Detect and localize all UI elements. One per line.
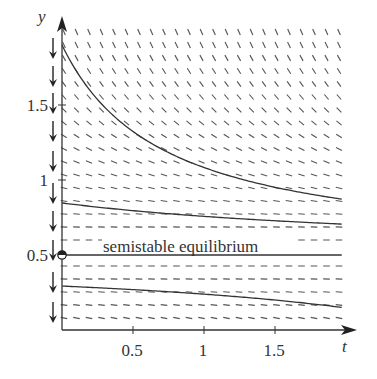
- slope-mark: [336, 121, 341, 125]
- slope-mark: [111, 187, 117, 188]
- slope-mark: [298, 201, 305, 202]
- slope-mark: [174, 94, 178, 99]
- slope-mark: [224, 147, 230, 150]
- slope-mark: [238, 29, 241, 35]
- slope-mark: [163, 42, 166, 48]
- slope-mark: [199, 94, 203, 99]
- slope-mark: [324, 147, 330, 150]
- slope-mark: [275, 42, 278, 48]
- slope-mark: [73, 214, 80, 215]
- slope-mark: [287, 108, 292, 113]
- slope-mark: [299, 94, 303, 99]
- slope-mark: [238, 42, 241, 48]
- slope-mark: [175, 81, 179, 86]
- slope-mark: [136, 317, 142, 318]
- slope-mark: [223, 214, 230, 215]
- slope-mark: [211, 161, 217, 163]
- slope-mark: [123, 174, 129, 176]
- slope-mark: [175, 55, 178, 61]
- slope-mark: [137, 55, 140, 61]
- slope-mark: [299, 121, 304, 125]
- slope-mark: [148, 174, 154, 176]
- slope-mark: [323, 161, 329, 163]
- slope-mark: [111, 317, 117, 318]
- slope-mark: [148, 161, 154, 163]
- slope-mark: [248, 187, 254, 188]
- slope-mark: [274, 94, 278, 99]
- slope-mark: [86, 161, 92, 163]
- x-tick-label-1: 1: [199, 341, 208, 360]
- slope-mark: [148, 305, 155, 306]
- slope-mark: [225, 29, 228, 35]
- slope-mark: [248, 174, 254, 176]
- slope-mark: [186, 134, 192, 138]
- slope-mark: [150, 29, 153, 35]
- slope-mark: [211, 174, 217, 176]
- slope-mark: [74, 94, 78, 99]
- slope-mark: [237, 68, 241, 74]
- slope-mark: [286, 201, 293, 202]
- slope-mark: [298, 174, 304, 176]
- slope-mark: [212, 55, 215, 61]
- semistable-point-icon: [58, 251, 66, 259]
- slope-mark: [299, 108, 304, 113]
- slope-mark: [274, 134, 280, 138]
- slope-mark: [223, 187, 229, 188]
- slope-mark: [187, 68, 191, 74]
- slope-mark: [224, 94, 228, 99]
- slope-mark: [248, 201, 255, 202]
- slope-mark: [298, 187, 304, 188]
- slope-mark: [236, 305, 243, 306]
- slope-mark: [98, 317, 104, 318]
- slope-mark: [286, 317, 292, 318]
- down-arrow-icon: [49, 66, 57, 87]
- slope-mark: [298, 305, 305, 306]
- slope-mark: [86, 201, 93, 202]
- slope-mark: [298, 161, 304, 163]
- slope-mark: [298, 214, 305, 215]
- slope-mark: [211, 134, 217, 138]
- slope-mark: [250, 68, 254, 74]
- slope-mark: [86, 305, 93, 306]
- slope-mark: [111, 134, 117, 138]
- slope-mark: [275, 55, 278, 61]
- slope-mark: [137, 108, 142, 113]
- slope-mark: [123, 317, 129, 318]
- slope-mark: [336, 161, 342, 163]
- slope-mark: [125, 29, 128, 35]
- slope-mark: [286, 305, 293, 306]
- slope-mark: [248, 305, 255, 306]
- slope-mark: [323, 187, 329, 188]
- slope-mark: [250, 29, 253, 35]
- slope-mark: [250, 81, 254, 86]
- slope-mark: [324, 121, 329, 125]
- slope-mark: [100, 29, 103, 35]
- slope-mark: [149, 121, 154, 125]
- slope-mark: [161, 187, 167, 188]
- slope-mark: [261, 201, 268, 202]
- slope-mark: [198, 187, 204, 188]
- slope-mark: [224, 134, 230, 138]
- y-axis-label: y: [36, 7, 46, 26]
- slope-mark: [75, 55, 78, 61]
- slope-mark: [149, 134, 155, 138]
- slope-mark: [311, 201, 318, 202]
- slope-mark: [325, 55, 328, 61]
- slope-mark: [186, 317, 192, 318]
- slope-mark: [123, 201, 130, 202]
- slope-mark: [199, 134, 205, 138]
- slope-mark: [73, 161, 79, 163]
- slope-mark: [199, 147, 205, 150]
- slope-field-chart: y t 0.5 1 1.5 1.5 1 0.5 semistable equil…: [0, 0, 377, 379]
- down-arrow-icon: [49, 151, 57, 172]
- slope-mark: [275, 81, 279, 86]
- slope-mark: [312, 68, 316, 74]
- slope-mark: [113, 29, 116, 35]
- slope-mark: [225, 81, 229, 86]
- slope-mark: [262, 108, 267, 113]
- slope-mark: [161, 134, 167, 138]
- slope-mark: [125, 55, 128, 61]
- slope-mark: [223, 201, 230, 202]
- down-arrow-icon: [49, 302, 57, 323]
- slope-mark: [198, 305, 205, 306]
